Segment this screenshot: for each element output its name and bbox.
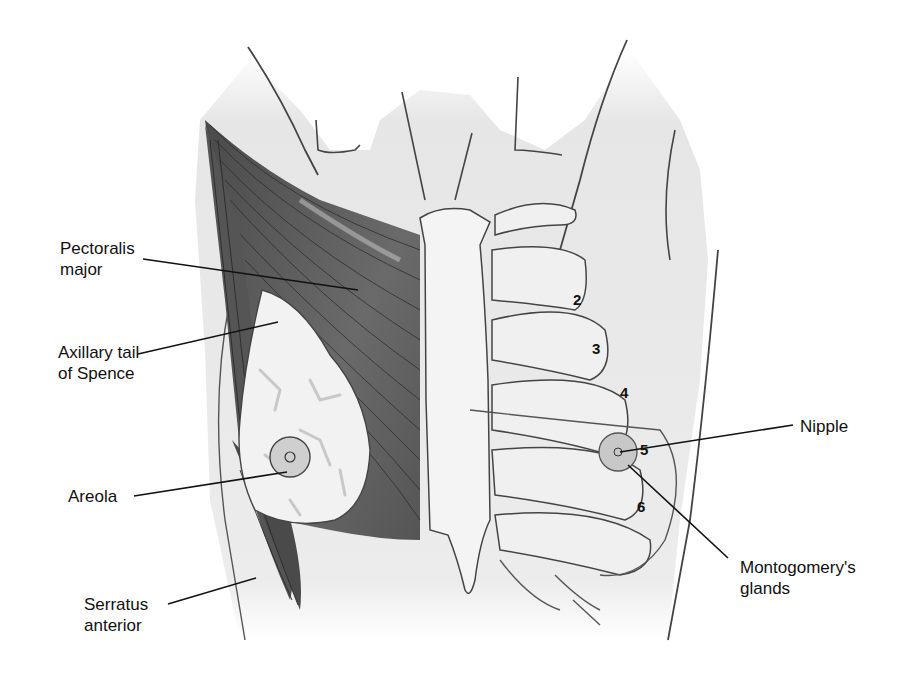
right-areola-shape [599, 433, 637, 471]
label-line: of Spence [58, 363, 139, 384]
svg-text:4: 4 [620, 384, 629, 401]
label-line: Axillary tail [58, 342, 139, 363]
label-nipple: Nipple [800, 416, 848, 437]
label-pectoralis-major: Pectoralis major [60, 238, 135, 280]
label-serratus-anterior: Serratus anterior [84, 594, 148, 636]
areola-shape [270, 437, 310, 477]
svg-text:2: 2 [573, 291, 581, 308]
label-line: Nipple [800, 416, 848, 437]
label-line: glands [740, 578, 856, 599]
label-axillary-tail: Axillary tail of Spence [58, 342, 139, 384]
label-line: Serratus [84, 594, 148, 615]
svg-text:6: 6 [637, 498, 645, 515]
anatomy-figure: 2 3 4 5 6 Pectoralis major Axillary tail… [0, 0, 905, 691]
label-line: Pectoralis [60, 238, 135, 259]
label-line: Areola [68, 486, 117, 507]
svg-text:5: 5 [640, 441, 648, 458]
label-montgomerys-glands: Montogomery's glands [740, 557, 856, 599]
label-areola: Areola [68, 486, 117, 507]
svg-text:3: 3 [592, 340, 600, 357]
label-line: Montogomery's [740, 557, 856, 578]
label-line: major [60, 259, 135, 280]
label-line: anterior [84, 615, 148, 636]
